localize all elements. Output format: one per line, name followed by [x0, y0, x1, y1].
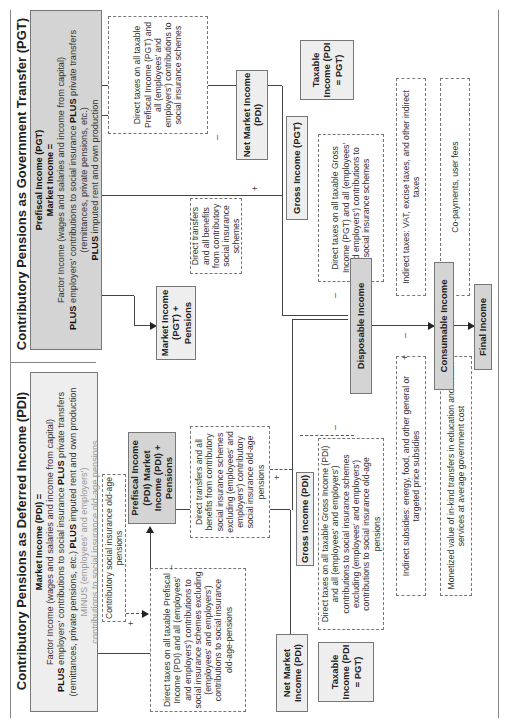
- connector: [292, 320, 293, 510]
- left-in-kind-note: Monetized value of in-kind transfers in …: [440, 356, 472, 596]
- left-market-line4: MINUS (employees' and employers'): [79, 377, 90, 707]
- text: private transfers: [56, 392, 66, 460]
- right-direct-transfers-note: Direct transfers and all benefits from c…: [190, 198, 242, 274]
- left-direct-taxes-note: Direct taxes on all taxable Prefiscal In…: [150, 568, 246, 712]
- text: (remittances, private pensions, etc.): [68, 548, 78, 696]
- arrow-down-icon: [142, 610, 149, 618]
- right-market-line1: Factor Income (wages and salaries and in…: [56, 15, 67, 345]
- minus-sign: –: [166, 565, 176, 570]
- connector: [372, 325, 432, 326]
- final-income-box: Final Income: [474, 284, 492, 370]
- left-market-income-box: Market Income (PDI) = Factor Income (wag…: [30, 372, 98, 712]
- left-prefiscal-income-box: Prefiscal Income (PDI) Market Income (PD…: [128, 432, 176, 524]
- top-rule: [10, 10, 11, 718]
- left-market-line2: PLUS employers' contributions to social …: [56, 377, 67, 707]
- right-market-line3: (remittances, private pensions, etc.): [79, 15, 90, 345]
- left-direct-taxes-gross-note: Direct taxes on all taxable Gross Income…: [318, 438, 384, 630]
- right-market-heading1: Prefiscal Income (PGT): [34, 130, 44, 231]
- right-market-plus-pensions: Market Income (PGT) + Pensions: [156, 286, 196, 360]
- consumable-income-box: Consumable Income: [434, 262, 454, 390]
- text: private transfers: [68, 30, 78, 98]
- left-contrib-pensions-note: Contributory social insurance old-age pe…: [102, 474, 126, 622]
- connector: [282, 315, 348, 316]
- bottom-rule: [498, 10, 499, 718]
- connector: [292, 319, 348, 320]
- text: employers' contributions to social insur…: [56, 485, 66, 668]
- left-market-heading: Market Income (PDI) =: [34, 494, 44, 590]
- minus-sign: –: [330, 293, 340, 298]
- right-market-income-box: Prefiscal Income (PGT) Market Income = F…: [30, 10, 102, 350]
- connector: [102, 295, 134, 296]
- left-direct-transfers-note: Direct transfers and all benefits from c…: [190, 426, 270, 538]
- plus-sign: +: [272, 475, 282, 480]
- left-panel-title: Contributory Pensions as Deferred Income…: [14, 376, 29, 706]
- connector: [282, 86, 283, 316]
- plus-keyword: PLUS: [68, 98, 78, 123]
- plus-keyword: PLUS: [68, 305, 78, 330]
- text: employers' contributions to social insur…: [68, 123, 78, 306]
- right-indirect-taxes-note: Indirect taxes: VAT, excise taxes, and o…: [396, 78, 426, 296]
- minus-sign: –: [400, 333, 410, 338]
- right-market-heading2: Market Income =: [45, 144, 55, 216]
- right-market-line2: PLUS employers' contributions to social …: [68, 15, 79, 345]
- dashed-connector: [270, 469, 292, 470]
- right-taxable-income: Taxable Income (PDI = PGT): [300, 40, 354, 100]
- disposable-income-box: Disposable Income: [350, 258, 372, 394]
- connector: [290, 510, 291, 634]
- right-direct-taxes-note-visible: Direct taxes on all taxable Prefiscal In…: [108, 16, 208, 134]
- right-net-market-income: Net Market Income (PDI): [236, 70, 268, 160]
- arrow-right-icon: [146, 526, 154, 533]
- plus-sign: +: [250, 186, 260, 191]
- left-gross-income: Gross Income (PDI): [296, 472, 314, 566]
- minus-sign: –: [330, 425, 340, 430]
- minus-sign: –: [212, 135, 222, 140]
- connector: [134, 296, 135, 326]
- connector: [98, 653, 150, 654]
- dashed-connector: [300, 435, 354, 436]
- left-taxable-income: Taxable Income (PDI = PGT): [318, 642, 374, 702]
- left-market-line3: (remittances, private pensions, etc.) PL…: [68, 377, 79, 707]
- right-market-line4: PLUS imputed rent and own production: [90, 15, 101, 345]
- right-panel-title: Contributory Pensions as Government Tran…: [14, 14, 29, 354]
- plus-keyword: PLUS: [56, 460, 66, 485]
- plus-keyword: PLUS: [56, 667, 66, 692]
- left-net-market-income: Net Market Income (PDI): [276, 634, 308, 712]
- left-indirect-subsidies-note: Indirect subsidies: energy, food, and ot…: [396, 356, 426, 596]
- plus-sign: +: [400, 355, 410, 360]
- right-gross-income: Gross Income (PGT): [286, 116, 308, 220]
- diagram-canvas: Contributory Pensions as Deferred Income…: [0, 0, 508, 726]
- text: imputed rent and own production: [90, 100, 100, 236]
- text: imputed rent and own production: [68, 388, 78, 524]
- left-market-line5: contributions to social insurance old-ag…: [90, 377, 101, 707]
- left-market-line1: Factor Income (wages and salaries and in…: [45, 377, 56, 707]
- plus-sign: +: [126, 621, 136, 626]
- plus-keyword: PLUS: [90, 236, 100, 261]
- connector: [102, 195, 282, 196]
- plus-keyword: PLUS: [68, 524, 78, 549]
- panel-divider: [10, 362, 96, 363]
